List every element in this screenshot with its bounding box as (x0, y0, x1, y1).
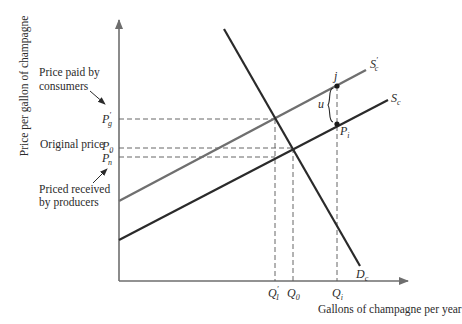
tax-incidence-diagram: Price per gallon of champagne Gallons of… (0, 0, 462, 324)
label-qi: Qi (332, 286, 343, 302)
y-axis-label: Price per gallon of champagne (18, 16, 31, 157)
supply-curve-shifted (119, 70, 366, 201)
point-j (334, 83, 339, 88)
point-pi (334, 121, 339, 126)
annotation-original-price: Original price (40, 138, 104, 151)
label-pg-prime: P′g (101, 111, 112, 128)
label-q1-prime: Q′1 (268, 285, 279, 302)
demand-curve (224, 29, 360, 266)
label-u: u (318, 97, 324, 111)
arrow-price-received-icon (93, 169, 107, 183)
label-pi: Pi (339, 124, 350, 140)
label-supply: Sc (391, 91, 401, 107)
supply-curve (119, 100, 388, 240)
annotation-price-paid-line2: consumers (39, 80, 89, 92)
label-demand: Dc (355, 267, 369, 283)
label-supply-shifted: S′c (370, 56, 379, 73)
annotation-price-received-line2: by producers (39, 196, 99, 209)
annotation-price-received-line1: Priced received (39, 183, 110, 195)
label-q0: Q0 (287, 286, 300, 302)
x-axis-label: Gallons of champagne per year (318, 303, 462, 316)
brace-u-icon (328, 88, 333, 122)
label-pn-prime: P′n (101, 150, 112, 167)
label-j: j (332, 69, 338, 83)
arrow-price-paid-icon (90, 91, 105, 104)
annotation-price-paid-line1: Price paid by (39, 66, 100, 79)
